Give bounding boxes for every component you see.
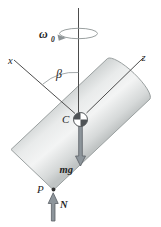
normal-force-label: N (59, 199, 68, 210)
center-label: C (62, 113, 70, 125)
contact-point-label: P (36, 183, 44, 195)
z-axis-label: z (141, 52, 146, 63)
contact-point-dot (52, 188, 56, 192)
center-of-mass-symbol (74, 113, 88, 127)
normal-force-arrow (48, 193, 58, 221)
omega-label: ω (39, 27, 48, 41)
x-axis-line (14, 60, 75, 114)
diagram-canvas: ω 0 x z β C mg P N (0, 0, 161, 227)
beta-angle-label: β (55, 67, 62, 81)
weight-label: mg (60, 164, 73, 175)
omega-subscript-label: 0 (51, 35, 55, 44)
x-axis-label: x (7, 55, 13, 66)
physics-diagram: ω 0 x z β C mg P N (0, 0, 161, 227)
